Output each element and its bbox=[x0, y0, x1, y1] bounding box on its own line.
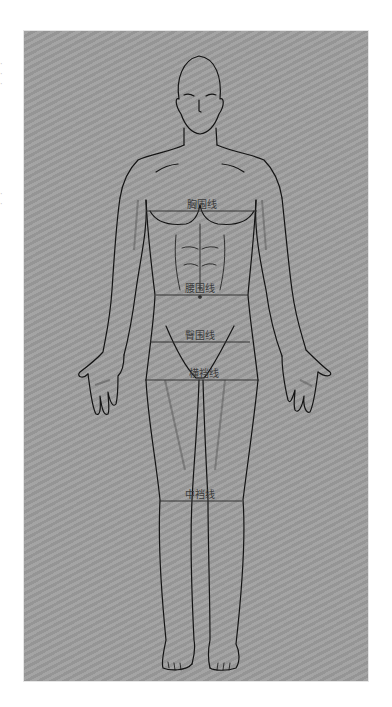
measurement-lines bbox=[0, 0, 392, 707]
hip-line-label: 臀围线 bbox=[185, 327, 215, 342]
waist-line-label: 腰围线 bbox=[185, 280, 215, 295]
knee-line-label: 中裆线 bbox=[185, 486, 215, 501]
crotch-line-label: 横裆线 bbox=[189, 365, 219, 380]
chest-line-label: 胸围线 bbox=[187, 196, 217, 211]
